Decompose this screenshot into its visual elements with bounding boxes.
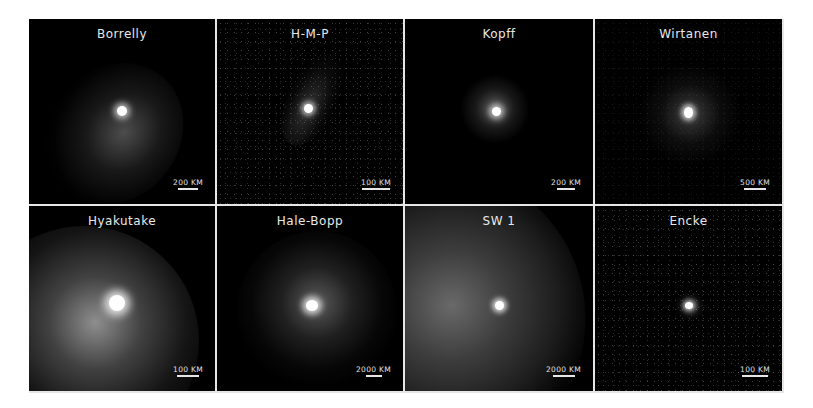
scale-line xyxy=(742,375,768,377)
panel-title: Hale-Bopp xyxy=(217,214,403,228)
scale-bar: 100 KM xyxy=(173,365,203,377)
panel-hyakutake: Hyakutake 100 KM xyxy=(29,206,215,391)
scale-line xyxy=(177,375,199,377)
scale-label: 100 KM xyxy=(361,178,391,187)
scale-label: 2000 KM xyxy=(546,365,581,374)
scale-bar: 100 KM xyxy=(740,365,770,377)
panel-title: Wirtanen xyxy=(595,27,782,41)
coma-glow xyxy=(405,206,593,391)
panel-h-m-p: H-M-P 100 KM xyxy=(217,19,403,204)
scale-label: 100 KM xyxy=(740,365,770,374)
scale-line xyxy=(744,188,766,190)
nucleus xyxy=(306,300,318,311)
panel-hale-bopp: Hale-Bopp 2000 KM xyxy=(217,206,403,391)
scale-bar: 200 KM xyxy=(551,178,581,190)
scale-line xyxy=(178,188,198,190)
scale-bar: 500 KM xyxy=(740,178,770,190)
scale-label: 200 KM xyxy=(551,178,581,187)
panel-borrelly: Borrelly 200 KM xyxy=(29,19,215,204)
scale-bar: 100 KM xyxy=(361,178,391,190)
panel-title: Encke xyxy=(595,214,782,228)
scale-line xyxy=(553,375,575,377)
nucleus xyxy=(495,301,504,310)
scale-bar: 2000 KM xyxy=(356,365,391,377)
noise-texture xyxy=(595,19,782,204)
panel-kopff: Kopff 200 KM xyxy=(405,19,593,204)
comet-mosaic: Borrelly 200 KM H-M-P 100 KM Kopff 200 K… xyxy=(29,19,784,393)
panel-title: Hyakutake xyxy=(29,214,215,228)
scale-line xyxy=(557,188,575,190)
panel-title: SW 1 xyxy=(405,214,593,228)
scale-bar: 2000 KM xyxy=(546,365,581,377)
scale-label: 200 KM xyxy=(173,178,203,187)
panel-encke: Encke 100 KM xyxy=(595,206,782,391)
scale-label: 500 KM xyxy=(740,178,770,187)
panel-wirtanen: Wirtanen 500 KM xyxy=(595,19,782,204)
nucleus xyxy=(492,107,501,116)
nucleus xyxy=(117,106,127,116)
scale-line xyxy=(362,188,390,190)
nucleus xyxy=(109,295,125,311)
noise-texture xyxy=(217,19,403,204)
scale-label: 100 KM xyxy=(173,365,203,374)
panel-title: Borrelly xyxy=(29,27,215,41)
scale-label: 2000 KM xyxy=(356,365,391,374)
noise-texture xyxy=(595,206,782,391)
panel-title: H-M-P xyxy=(217,27,403,41)
coma-glow xyxy=(460,74,530,144)
scale-line xyxy=(366,375,382,377)
panel-sw-1: SW 1 2000 KM xyxy=(405,206,593,391)
panel-title: Kopff xyxy=(405,27,593,41)
scale-bar: 200 KM xyxy=(173,178,203,190)
